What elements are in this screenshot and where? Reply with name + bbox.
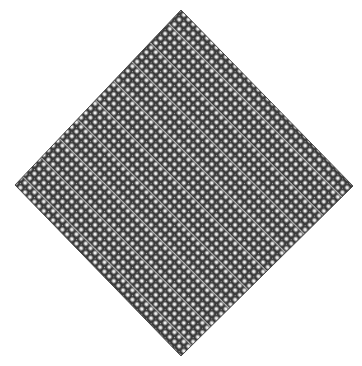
diamond-lattice <box>0 0 362 366</box>
pattern-canvas: Diamond lattice pattern <box>0 0 362 366</box>
lattice-fill <box>0 0 362 366</box>
